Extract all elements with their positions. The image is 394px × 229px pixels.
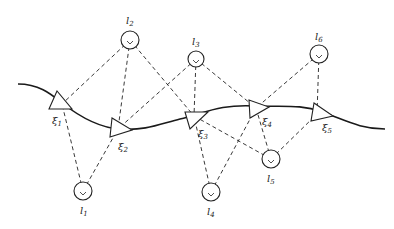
observation-edge-l1-xi1	[62, 104, 83, 191]
landmark-label-l2: l2	[126, 15, 134, 28]
pose-label-xi4: ξ4	[262, 116, 272, 129]
landmark-label-l1: l1	[80, 205, 88, 218]
landmark-label-l5: l5	[267, 173, 275, 186]
slam-graph-diagram: ξ1ξ2ξ3ξ4ξ5l1l2l3l4l5l6	[0, 0, 394, 229]
observation-edge-l2-xi2	[118, 40, 130, 129]
observation-edge-l2-xi3	[130, 40, 194, 116]
pose-triangle-xi2	[110, 118, 132, 137]
pose-triangle-xi1	[49, 91, 72, 109]
observation-edge-l5-xi5	[271, 114, 317, 159]
pose-label-xi5: ξ5	[322, 122, 333, 135]
pose-label-xi2: ξ2	[118, 141, 129, 154]
landmark-label-l6: l6	[315, 31, 323, 44]
observation-edge-l3-xi3	[194, 59, 196, 116]
landmark-circle-l4	[202, 183, 220, 201]
robot-poses	[49, 91, 333, 137]
observation-edge-l4-xi4	[211, 108, 256, 192]
landmark-circle-l2	[121, 31, 139, 49]
landmark-circle-l6	[310, 45, 328, 63]
pose-label-xi1: ξ1	[52, 115, 62, 128]
landmark-circle-l5	[262, 150, 280, 168]
landmark-circle-l3	[188, 51, 204, 67]
pose-label-xi3: ξ3	[198, 128, 209, 141]
landmark-circle-l1	[74, 182, 92, 200]
pose-triangle-xi5	[311, 103, 333, 121]
landmark-label-l4: l4	[207, 206, 215, 219]
observation-edge-l3-xi4	[196, 59, 256, 108]
pose-triangle-xi3	[185, 112, 208, 129]
observation-edge-l1-xi2	[83, 129, 118, 191]
robot-trajectory-curve	[18, 84, 385, 129]
landmark-label-l3: l3	[192, 36, 200, 49]
observation-edge-l6-xi4	[256, 54, 319, 108]
observation-edge-l2-xi1	[62, 40, 130, 104]
